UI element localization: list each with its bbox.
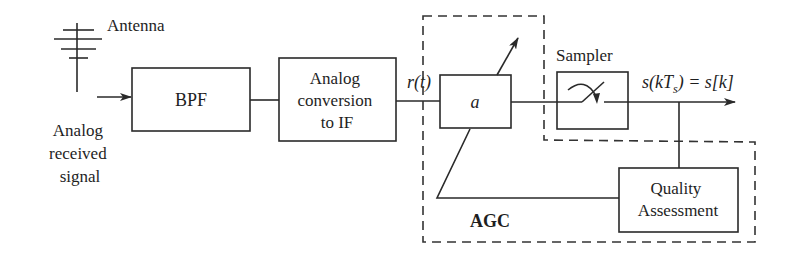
bpf-label: BPF xyxy=(175,90,207,110)
antenna-icon xyxy=(54,23,102,92)
sampler-block xyxy=(557,72,628,129)
gain-label: a xyxy=(471,92,480,112)
sampler-label: Sampler xyxy=(556,46,613,65)
quality-assessment-block xyxy=(619,168,738,232)
antenna-label: Antenna xyxy=(107,16,165,35)
agc-label: AGC xyxy=(470,211,510,231)
input-label: Analog received signal xyxy=(49,121,111,186)
agc-block-diagram: Antenna Analog received signal BPF Analo… xyxy=(0,0,799,260)
rt-label: r(t) xyxy=(407,72,431,93)
output-label: s(kTs) = s[k] xyxy=(642,72,734,96)
feedback-wire xyxy=(437,129,619,198)
variable-gain-arrow xyxy=(497,38,518,75)
